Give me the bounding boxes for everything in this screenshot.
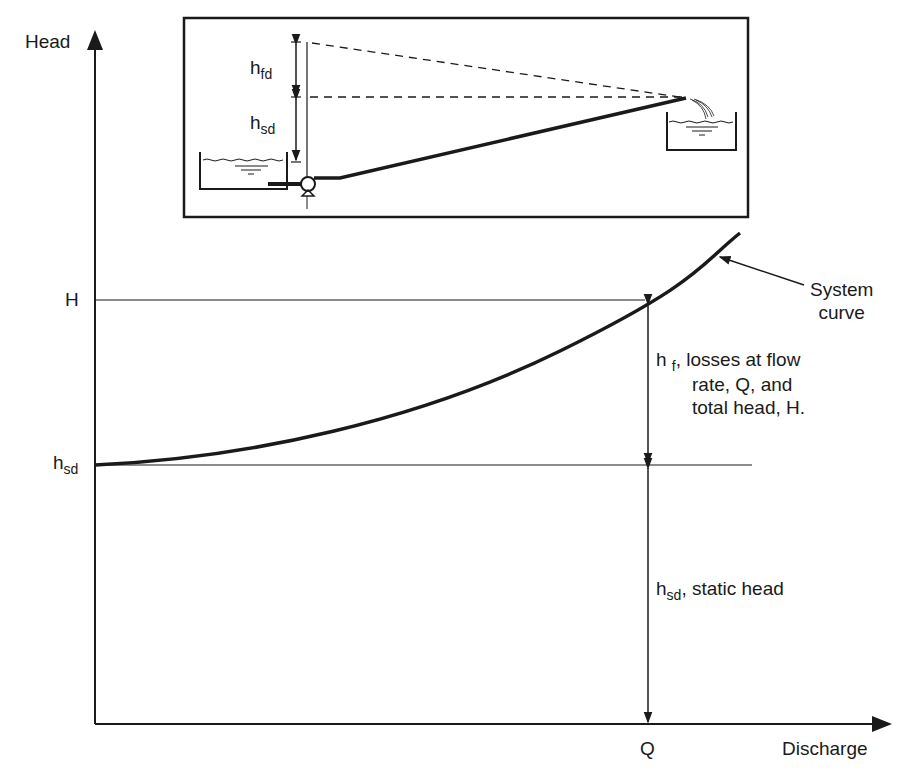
static-symbol: h (656, 578, 667, 599)
inset-hsd-label: hsd (250, 113, 275, 132)
inset-hsd-main: h (250, 112, 261, 133)
y-axis-label: Head (25, 32, 70, 51)
static-head-annotation: hsd, static head (656, 577, 784, 602)
y-tick-total-head: H (65, 290, 79, 309)
x-axis-label: Discharge (782, 739, 868, 758)
y-tick-total-head-text: H (65, 289, 79, 310)
inset-hfd-main: h (250, 57, 261, 78)
y-tick-static-head-main: h (53, 452, 64, 473)
static-text: , static head (681, 578, 783, 599)
losses-line1: , losses at flow (676, 349, 801, 370)
system-curve (95, 233, 740, 465)
discharge-pipe (314, 98, 686, 178)
discharge-tank (667, 112, 736, 150)
losses-symbol: h (656, 349, 667, 370)
hsd-dimension (291, 97, 301, 162)
energy-grade-line (312, 43, 686, 98)
y-tick-static-head-sub: sd (64, 461, 79, 477)
losses-line3: total head, H. (656, 396, 805, 419)
losses-subscript: f (672, 358, 676, 374)
x-tick-q: Q (640, 739, 655, 758)
hfd-dimension (291, 42, 301, 95)
inset-hfd-label: hfd (250, 58, 272, 77)
system-curve-label-line1: System (810, 278, 873, 301)
system-curve-leader (720, 257, 804, 285)
losses-line2: rate, Q, and (656, 373, 805, 396)
y-tick-static-head: hsd (53, 453, 78, 472)
discharge-spray-icon (690, 99, 714, 119)
system-curve-label: System curve (810, 278, 873, 324)
pump-icon (301, 177, 315, 209)
inset-hsd-sub: sd (261, 121, 276, 137)
static-subscript: sd (667, 587, 682, 603)
inset-hfd-sub: fd (261, 66, 273, 82)
friction-loss-annotation: h f, losses at flow rate, Q, and total h… (656, 348, 805, 419)
system-curve-label-line2: curve (810, 301, 873, 324)
